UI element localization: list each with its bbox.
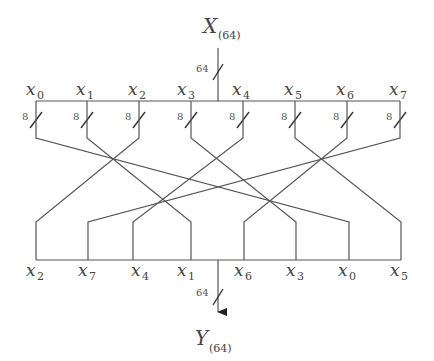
svg-text:x: x: [78, 260, 88, 280]
svg-text:x: x: [390, 260, 400, 280]
svg-text:8: 8: [73, 111, 79, 122]
svg-text:x: x: [76, 79, 86, 99]
svg-text:x: x: [284, 79, 294, 99]
svg-text:0: 0: [37, 89, 44, 102]
svg-text:6: 6: [245, 270, 252, 283]
input-label: X (64): [201, 14, 241, 42]
permutation-diagram: X (64) 64 x0 x1 x2 x3 x4 x5 x6 x7 8 8 8 …: [0, 0, 434, 361]
width-marker-4: 8: [229, 111, 249, 128]
top-label-7: x7: [389, 79, 407, 102]
svg-text:2: 2: [37, 270, 44, 283]
wire-x5: [295, 101, 401, 260]
svg-text:x: x: [234, 260, 244, 280]
svg-text:8: 8: [229, 111, 235, 122]
svg-text:8: 8: [125, 111, 131, 122]
svg-text:x: x: [336, 79, 346, 99]
svg-text:X: X: [201, 14, 218, 38]
top-label-5: x5: [284, 79, 302, 102]
output-label: Y (64): [195, 326, 232, 355]
branch-width-markers: 8 8 8 8 8 8 8 8: [22, 111, 406, 128]
svg-text:x: x: [338, 260, 348, 280]
top-label-4: x4: [232, 79, 250, 102]
output-bus-width-label: 64: [196, 287, 209, 298]
svg-text:0: 0: [349, 270, 356, 283]
svg-text:Y: Y: [195, 326, 210, 350]
svg-text:8: 8: [177, 111, 183, 122]
svg-text:6: 6: [347, 89, 354, 102]
svg-text:x: x: [128, 79, 138, 99]
svg-text:x: x: [232, 79, 242, 99]
svg-text:5: 5: [295, 89, 302, 102]
bottom-label-6: x0: [338, 260, 356, 283]
permutation-wires: [36, 101, 401, 260]
svg-text:8: 8: [281, 111, 287, 122]
svg-text:(64): (64): [209, 342, 232, 355]
svg-text:x: x: [177, 260, 187, 280]
svg-text:x: x: [177, 79, 187, 99]
input-bus-width-label: 64: [196, 63, 209, 74]
svg-text:7: 7: [400, 89, 407, 102]
svg-text:3: 3: [297, 270, 304, 283]
svg-text:2: 2: [139, 89, 146, 102]
width-marker-5: 8: [281, 111, 301, 128]
width-marker-1: 8: [73, 111, 93, 128]
bottom-label-1: x7: [78, 260, 96, 283]
svg-text:4: 4: [243, 89, 250, 102]
svg-text:1: 1: [188, 270, 195, 283]
bottom-label-7: x5: [390, 260, 408, 283]
bottom-label-5: x3: [286, 260, 304, 283]
width-marker-7: 8: [386, 111, 406, 128]
top-label-1: x1: [76, 79, 94, 102]
width-marker-3: 8: [177, 111, 197, 128]
bottom-label-3: x1: [177, 260, 195, 283]
bottom-label-0: x2: [26, 260, 44, 283]
svg-text:(64): (64): [218, 29, 241, 42]
svg-text:x: x: [26, 79, 36, 99]
svg-text:7: 7: [89, 270, 96, 283]
svg-text:5: 5: [401, 270, 408, 283]
svg-text:x: x: [389, 79, 399, 99]
bottom-label-4: x6: [234, 260, 252, 283]
svg-text:x: x: [131, 260, 141, 280]
svg-text:1: 1: [87, 89, 94, 102]
bottom-labels: x2 x7 x4 x1 x6 x3 x0 x5: [26, 260, 408, 283]
svg-text:8: 8: [22, 111, 28, 122]
svg-text:x: x: [286, 260, 296, 280]
width-marker-2: 8: [125, 111, 145, 128]
top-label-6: x6: [336, 79, 354, 102]
top-label-0: x0: [26, 79, 44, 102]
svg-text:4: 4: [142, 270, 149, 283]
top-labels: x0 x1 x2 x3 x4 x5 x6 x7: [26, 79, 407, 102]
svg-text:8: 8: [386, 111, 392, 122]
width-marker-0: 8: [22, 111, 42, 128]
bottom-label-2: x4: [131, 260, 149, 283]
svg-text:3: 3: [188, 89, 195, 102]
svg-text:8: 8: [333, 111, 339, 122]
width-marker-6: 8: [333, 111, 353, 128]
top-label-2: x2: [128, 79, 146, 102]
top-label-3: x3: [177, 79, 195, 102]
svg-text:x: x: [26, 260, 36, 280]
